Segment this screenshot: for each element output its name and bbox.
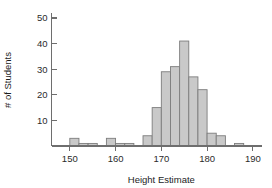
y-tick-label: 50 — [37, 12, 48, 23]
histogram-bar — [70, 138, 79, 146]
histogram-bar — [198, 90, 207, 146]
histogram-bar — [152, 108, 161, 146]
bars-group — [70, 41, 244, 146]
x-tick-group: 150160170180190 — [62, 146, 261, 164]
histogram-bar — [143, 136, 152, 146]
histogram-bar — [161, 72, 170, 146]
histogram-bar — [189, 77, 198, 146]
y-axis-title: # of Students — [2, 52, 13, 108]
x-tick-label: 160 — [108, 153, 124, 164]
histogram-chart: 1020304050 150160170180190 Height Estima… — [0, 0, 272, 188]
histogram-bar — [180, 41, 189, 146]
y-tick-label: 40 — [37, 38, 48, 49]
y-axis: 1020304050 — [37, 12, 57, 146]
x-axis: 150160170180190 — [52, 146, 263, 164]
y-tick-label: 20 — [37, 89, 48, 100]
x-tick-label: 180 — [199, 153, 215, 164]
histogram-bar — [170, 67, 179, 146]
y-tick-label: 30 — [37, 64, 48, 75]
histogram-bar — [216, 136, 225, 146]
histogram-bar — [106, 138, 115, 146]
x-tick-label: 190 — [245, 153, 261, 164]
chart-canvas: 1020304050 150160170180190 Height Estima… — [0, 0, 272, 188]
y-tick-group: 1020304050 — [37, 12, 57, 125]
x-tick-label: 150 — [62, 153, 78, 164]
y-tick-label: 10 — [37, 115, 48, 126]
x-axis-title: Height Estimate — [128, 174, 195, 185]
histogram-bar — [207, 133, 216, 146]
x-tick-label: 170 — [153, 153, 169, 164]
plot-area: 1020304050 150160170180190 Height Estima… — [0, 0, 272, 188]
